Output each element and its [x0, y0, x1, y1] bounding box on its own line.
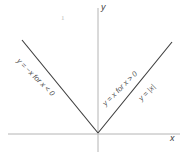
- unit-tick-label: 1: [61, 14, 65, 22]
- left-branch-line: [22, 40, 98, 133]
- x-axis-label: x: [170, 134, 175, 143]
- right-branch-line: [98, 42, 172, 133]
- graph-canvas: [0, 0, 188, 157]
- absolute-value-function-graph: y x y = −x for x < 0 y = x for x > 0 y =…: [0, 0, 188, 157]
- y-axis-label: y: [101, 3, 106, 12]
